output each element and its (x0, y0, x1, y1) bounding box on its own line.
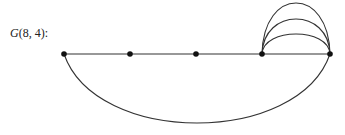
graph-diagram (0, 0, 345, 135)
graph-node (127, 51, 133, 57)
graph-node (259, 51, 265, 57)
graph-edges (64, 3, 330, 123)
graph-node (193, 51, 199, 57)
graph-node (327, 51, 333, 57)
edge-arc (262, 19, 330, 54)
edge-arc (64, 54, 330, 123)
graph-node (61, 51, 67, 57)
edge-arc (262, 34, 330, 54)
